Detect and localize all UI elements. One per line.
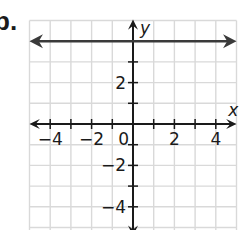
x-tick-label: −2 [79,129,104,149]
x-tick-label: 2 [169,129,180,149]
x-tick-label: −4 [38,129,63,149]
x-tick-label: 4 [210,129,221,149]
x-tick-label: 0 [118,129,129,149]
y-tick-label: 2 [115,73,126,93]
y-tick-label: −2 [101,155,126,175]
tick-labels: −4−20242−2−4xy [38,18,240,217]
y-axis-name: y [139,18,151,38]
x-axis-name: x [227,100,239,120]
axes [30,19,237,230]
y-tick-label: −4 [101,197,126,217]
coordinate-plane: −4−20242−2−4xy [0,0,240,230]
